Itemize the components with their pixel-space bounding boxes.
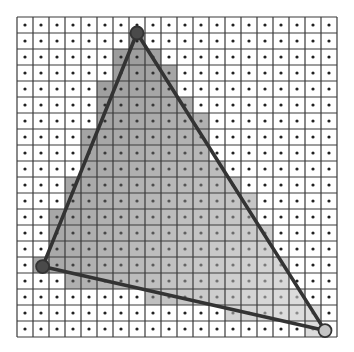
sample-dot [55,55,58,58]
sample-dot [167,39,170,42]
sample-dot [103,119,106,122]
rasterization-diagram [0,0,354,352]
sample-dot [151,87,154,90]
sample-dot [151,71,154,74]
sample-dot [23,103,26,106]
sample-dot [103,263,106,266]
sample-dot [295,135,298,138]
sample-dot [327,215,330,218]
sample-dot [247,23,250,26]
sample-dot [87,39,90,42]
sample-dot [215,103,218,106]
sample-dot [135,87,138,90]
sample-dot [183,39,186,42]
sample-dot [199,119,202,122]
sample-dot [263,71,266,74]
sample-dot [311,39,314,42]
sample-dot [247,135,250,138]
sample-dot [295,23,298,26]
sample-dot [167,151,170,154]
vertex-left [36,260,49,273]
sample-dot [119,279,122,282]
sample-dot [295,311,298,314]
sample-dot [39,135,42,138]
sample-dot [119,87,122,90]
sample-dot [183,151,186,154]
sample-dot [103,231,106,234]
sample-dot [295,247,298,250]
sample-dot [183,199,186,202]
sample-dot [231,167,234,170]
sample-dot [215,71,218,74]
sample-dot [39,23,42,26]
sample-dot [87,279,90,282]
sample-dot [119,151,122,154]
sample-dot [263,151,266,154]
sample-dot [199,263,202,266]
sample-dot [23,215,26,218]
sample-dot [135,135,138,138]
sample-dot [199,295,202,298]
sample-dot [263,199,266,202]
sample-dot [215,279,218,282]
sample-dot [263,167,266,170]
sample-dot [247,247,250,250]
sample-dot [215,327,218,330]
sample-dot [71,119,74,122]
sample-dot [247,199,250,202]
sample-dot [87,215,90,218]
sample-dot [247,167,250,170]
sample-dot [103,295,106,298]
sample-dot [263,55,266,58]
sample-dot [119,39,122,42]
sample-dot [23,87,26,90]
sample-dot [103,135,106,138]
sample-dot [119,167,122,170]
sample-dot [103,23,106,26]
sample-dot [327,167,330,170]
sample-dot [55,247,58,250]
sample-dot [151,119,154,122]
sample-dot [39,39,42,42]
sample-dot [247,119,250,122]
sample-dot [55,151,58,154]
sample-dot [87,295,90,298]
sample-dot [247,263,250,266]
sample-dot [295,215,298,218]
sample-dot [167,71,170,74]
sample-dot [279,55,282,58]
sample-dot [327,199,330,202]
sample-dot [135,183,138,186]
sample-dot [135,151,138,154]
sample-dot [231,247,234,250]
sample-dot [183,279,186,282]
sample-dot [135,71,138,74]
sample-dot [231,263,234,266]
sample-dot [135,247,138,250]
sample-dot [215,247,218,250]
sample-dot [151,151,154,154]
sample-dot [231,87,234,90]
sample-dot [231,151,234,154]
sample-dot [151,103,154,106]
sample-dot [119,23,122,26]
sample-dot [279,135,282,138]
sample-dot [279,327,282,330]
sample-dot [87,87,90,90]
sample-dot [199,199,202,202]
sample-dot [327,231,330,234]
sample-dot [231,327,234,330]
sample-dot [247,151,250,154]
sample-dot [167,263,170,266]
sample-dot [263,135,266,138]
sample-dot [327,135,330,138]
sample-dot [71,327,74,330]
sample-dot [279,295,282,298]
sample-dot [263,247,266,250]
sample-dot [279,215,282,218]
sample-dot [151,199,154,202]
sample-dot [39,311,42,314]
sample-dot [167,55,170,58]
sample-dot [135,199,138,202]
sample-dot [295,327,298,330]
